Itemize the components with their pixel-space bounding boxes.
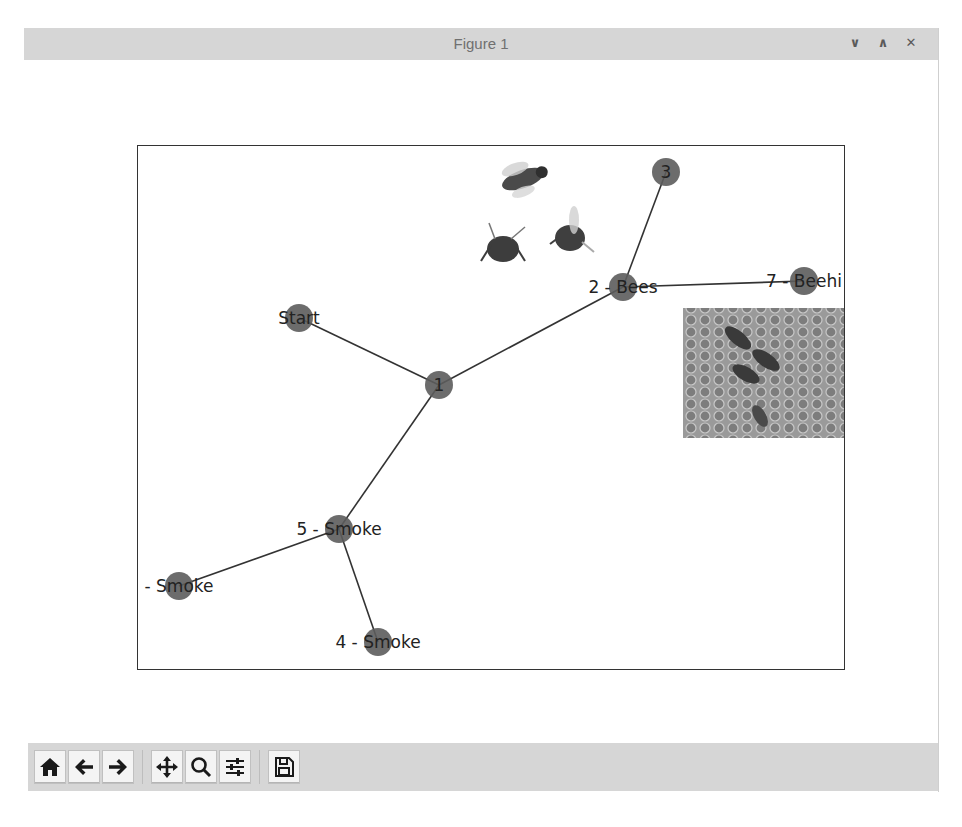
toolbar-separator — [142, 750, 143, 784]
node-label: 4 - Smoke — [335, 632, 420, 652]
home-icon — [38, 755, 62, 779]
magnifier-icon — [189, 755, 213, 779]
window-controls: ∨ ∧ ✕ — [848, 33, 918, 53]
maximize-button[interactable]: ∧ — [876, 33, 890, 53]
title-bar[interactable]: Figure 1 ∨ ∧ ✕ — [24, 28, 938, 60]
node-label: 1 — [434, 375, 445, 395]
floppy-disk-icon — [272, 755, 296, 779]
network-graph: Start12 - Bees37 - Beehi5 - Smoke- Smoke… — [138, 146, 844, 669]
chevron-up-icon: ∧ — [878, 35, 889, 50]
node-label: - Smoke — [145, 576, 214, 596]
figure-window: Figure 1 ∨ ∧ ✕ — [24, 28, 939, 792]
forward-button[interactable] — [102, 750, 134, 784]
arrow-left-icon — [72, 755, 96, 779]
node-label: 7 - Beehi — [766, 271, 842, 291]
plot-axes[interactable]: Start12 - Bees37 - Beehi5 - Smoke- Smoke… — [137, 145, 845, 670]
node-label: 5 - Smoke — [296, 519, 381, 539]
move-icon — [155, 755, 179, 779]
minimize-button[interactable]: ∨ — [848, 33, 862, 53]
honeycomb-image — [683, 308, 844, 438]
graph-edge — [339, 385, 439, 529]
home-button[interactable] — [34, 750, 66, 784]
close-button[interactable]: ✕ — [904, 33, 918, 53]
node-label: 2 - Bees — [588, 277, 657, 297]
node-label: 3 — [661, 162, 672, 182]
close-icon: ✕ — [906, 35, 917, 50]
zoom-button[interactable] — [185, 750, 217, 784]
sliders-icon — [223, 755, 247, 779]
figure-canvas[interactable]: Start12 - Bees37 - Beehi5 - Smoke- Smoke… — [24, 60, 938, 743]
graph-edge — [339, 529, 378, 642]
node-label: Start — [278, 308, 320, 328]
chevron-down-icon: ∨ — [850, 35, 861, 50]
configure-subplots-button[interactable] — [219, 750, 251, 784]
graph-edge — [299, 318, 439, 385]
pan-button[interactable] — [151, 750, 183, 784]
window-title: Figure 1 — [24, 35, 938, 52]
navigation-toolbar — [28, 743, 938, 791]
back-button[interactable] — [68, 750, 100, 784]
toolbar-separator — [259, 750, 260, 784]
graph-edge — [439, 287, 623, 385]
arrow-right-icon — [106, 755, 130, 779]
graph-edge — [623, 172, 666, 287]
bees-image — [481, 153, 594, 262]
save-button[interactable] — [268, 750, 300, 784]
